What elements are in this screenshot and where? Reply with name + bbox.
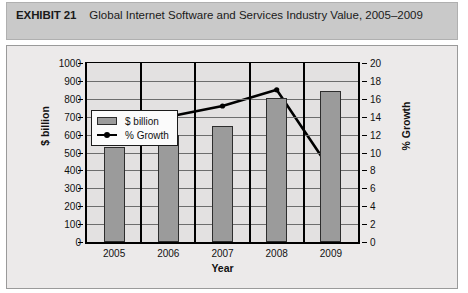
bar-2008 bbox=[266, 98, 287, 242]
y-right-tickmark bbox=[362, 99, 367, 100]
exhibit-header-band: EXHIBIT 21 Global Internet Software and … bbox=[6, 2, 458, 40]
legend-item-bar: $ billion bbox=[97, 114, 169, 128]
y-left-tick-100: 100 bbox=[37, 219, 81, 230]
line-marker-icon bbox=[97, 131, 117, 139]
exhibit-page: EXHIBIT 21 Global Internet Software and … bbox=[0, 0, 468, 293]
x-tick-2005: 2005 bbox=[103, 248, 125, 259]
y-left-tickmark bbox=[78, 188, 83, 189]
y-axis-right: 02468101214161820 bbox=[362, 62, 398, 244]
y-right-tick-8: 8 bbox=[370, 165, 400, 176]
exhibit-label: EXHIBIT 21 bbox=[16, 8, 76, 23]
growth-point-1 bbox=[220, 103, 225, 108]
y-right-tickmark bbox=[362, 153, 367, 154]
category-separator bbox=[140, 63, 142, 242]
x-axis-title: Year bbox=[85, 262, 360, 274]
gridline bbox=[87, 99, 358, 100]
y-left-tick-500: 500 bbox=[37, 147, 81, 158]
y-right-tick-18: 18 bbox=[370, 75, 400, 86]
y-left-tick-400: 400 bbox=[37, 165, 81, 176]
x-tick-2009: 2009 bbox=[320, 248, 342, 259]
y-right-tickmark bbox=[362, 242, 367, 243]
y-right-tick-10: 10 bbox=[370, 147, 400, 158]
y-right-tick-6: 6 bbox=[370, 183, 400, 194]
category-separator bbox=[249, 63, 251, 242]
growth-point-2 bbox=[274, 87, 279, 92]
y-left-tickmark bbox=[78, 242, 83, 243]
x-tick-2007: 2007 bbox=[211, 248, 233, 259]
y-axis-right-title: % Growth bbox=[400, 81, 412, 171]
y-left-tick-800: 800 bbox=[37, 93, 81, 104]
y-left-tick-1000: 1000 bbox=[37, 58, 81, 69]
bar-2006 bbox=[158, 135, 179, 242]
y-axis-left: 01002003004005006007008009001000 bbox=[31, 62, 81, 244]
y-left-tick-300: 300 bbox=[37, 183, 81, 194]
y-right-tickmark bbox=[362, 224, 367, 225]
y-right-tick-12: 12 bbox=[370, 129, 400, 140]
legend-item-line: % Growth bbox=[97, 128, 169, 142]
y-right-tick-16: 16 bbox=[370, 93, 400, 104]
y-left-tickmark bbox=[78, 206, 83, 207]
y-left-tickmark bbox=[78, 135, 83, 136]
plot-area bbox=[85, 62, 360, 244]
x-tick-2008: 2008 bbox=[266, 248, 288, 259]
category-separator bbox=[194, 63, 196, 242]
bar-2007 bbox=[212, 126, 233, 242]
y-right-tickmark bbox=[362, 170, 367, 171]
y-left-tickmark bbox=[78, 170, 83, 171]
y-right-tick-2: 2 bbox=[370, 219, 400, 230]
y-left-tickmark bbox=[78, 153, 83, 154]
y-right-tickmark bbox=[362, 135, 367, 136]
y-left-tick-600: 600 bbox=[37, 129, 81, 140]
y-right-tickmark bbox=[362, 188, 367, 189]
chart-legend: $ billion % Growth bbox=[91, 110, 178, 146]
y-right-tickmark bbox=[362, 206, 367, 207]
y-left-tick-200: 200 bbox=[37, 201, 81, 212]
y-left-tickmark bbox=[78, 117, 83, 118]
category-separator bbox=[303, 63, 305, 242]
chart-frame: $ billion % Growth Year 0100200300400500… bbox=[6, 45, 458, 289]
legend-label-bar: $ billion bbox=[125, 116, 159, 127]
bar-swatch-icon bbox=[97, 117, 117, 125]
x-tick-2006: 2006 bbox=[157, 248, 179, 259]
y-right-tick-4: 4 bbox=[370, 201, 400, 212]
chart-inner: $ billion % Growth Year 0100200300400500… bbox=[9, 48, 455, 286]
exhibit-title: Global Internet Software and Services In… bbox=[89, 8, 423, 23]
y-right-tick-14: 14 bbox=[370, 111, 400, 122]
y-left-tick-0: 0 bbox=[37, 237, 81, 248]
legend-label-line: % Growth bbox=[125, 130, 169, 141]
y-left-tickmark bbox=[78, 63, 83, 64]
y-right-tick-20: 20 bbox=[370, 58, 400, 69]
y-right-tickmark bbox=[362, 117, 367, 118]
bar-2009 bbox=[320, 91, 341, 242]
y-right-tickmark bbox=[362, 63, 367, 64]
bar-2005 bbox=[104, 147, 125, 242]
y-left-tickmark bbox=[78, 99, 83, 100]
y-right-tick-0: 0 bbox=[370, 237, 400, 248]
gridline bbox=[87, 81, 358, 82]
y-right-tickmark bbox=[362, 81, 367, 82]
y-left-tick-700: 700 bbox=[37, 111, 81, 122]
y-left-tickmark bbox=[78, 81, 83, 82]
y-left-tick-900: 900 bbox=[37, 75, 81, 86]
y-left-tickmark bbox=[78, 224, 83, 225]
